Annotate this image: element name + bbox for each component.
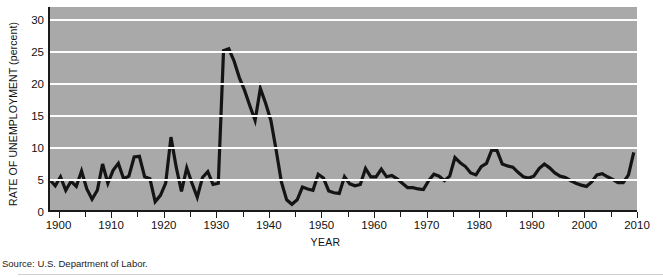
plot-area xyxy=(48,7,637,212)
source-note: Source: U.S. Department of Labor. xyxy=(2,258,148,269)
x-tick-1975 xyxy=(453,212,454,217)
gridline-20 xyxy=(50,83,637,85)
y-tick-label-25: 25 xyxy=(31,46,44,58)
gridline-30 xyxy=(50,19,637,21)
x-axis-ticks xyxy=(48,212,637,219)
y-tick-label-5: 5 xyxy=(38,174,44,186)
x-tick-label-1910: 1910 xyxy=(98,219,124,231)
x-tick-1965 xyxy=(400,212,401,217)
x-tick-1970 xyxy=(427,212,428,218)
unemployment-line-series xyxy=(50,7,639,212)
x-tick-2010 xyxy=(637,212,638,218)
gridline-15 xyxy=(50,115,637,117)
x-tick-label-1970: 1970 xyxy=(414,219,440,231)
x-tick-1915 xyxy=(137,212,138,217)
gridline-25 xyxy=(50,51,637,53)
x-tick-1985 xyxy=(506,212,507,217)
x-tick-label-1960: 1960 xyxy=(361,219,387,231)
x-tick-1920 xyxy=(164,212,165,218)
x-tick-1935 xyxy=(243,212,244,217)
x-tick-label-1990: 1990 xyxy=(519,219,545,231)
gridline-5 xyxy=(50,179,637,181)
x-tick-label-1930: 1930 xyxy=(203,219,229,231)
x-tick-1900 xyxy=(59,212,60,218)
x-tick-1960 xyxy=(374,212,375,218)
y-axis-tick-labels: 051015202530 xyxy=(20,0,44,220)
y-axis-title: RATE OF UNEMPLOYMENT (percent) xyxy=(7,9,19,219)
y-tick-label-20: 20 xyxy=(31,78,44,90)
x-tick-label-1980: 1980 xyxy=(466,219,492,231)
y-tick-label-0: 0 xyxy=(38,206,44,218)
x-tick-2000 xyxy=(584,212,585,218)
x-tick-1955 xyxy=(348,212,349,217)
x-tick-label-1920: 1920 xyxy=(151,219,177,231)
x-tick-label-2000: 2000 xyxy=(572,219,598,231)
gridline-10 xyxy=(50,147,637,149)
x-tick-1925 xyxy=(190,212,191,217)
x-axis-title: YEAR xyxy=(0,236,663,248)
y-tick-label-30: 30 xyxy=(31,14,44,26)
x-axis-title-text: YEAR xyxy=(311,236,341,248)
x-tick-1945 xyxy=(295,212,296,217)
x-tick-label-2010: 2010 xyxy=(624,219,650,231)
x-tick-label-1940: 1940 xyxy=(256,219,282,231)
x-tick-1940 xyxy=(269,212,270,218)
x-tick-2005 xyxy=(611,212,612,217)
x-tick-1990 xyxy=(532,212,533,218)
x-tick-1980 xyxy=(479,212,480,218)
x-tick-label-1950: 1950 xyxy=(309,219,335,231)
x-tick-1995 xyxy=(558,212,559,217)
bottom-divider xyxy=(18,274,663,275)
x-tick-1930 xyxy=(216,212,217,218)
x-tick-label-1900: 1900 xyxy=(46,219,72,231)
y-tick-label-10: 10 xyxy=(31,142,44,154)
unemployment-rate-chart-figure: RATE OF UNEMPLOYMENT (percent) 051015202… xyxy=(0,0,663,277)
y-tick-label-15: 15 xyxy=(31,110,44,122)
x-axis-tick-labels: 1900191019201930194019501960197019801990… xyxy=(0,219,663,235)
x-tick-1910 xyxy=(111,212,112,218)
x-tick-1950 xyxy=(321,212,322,218)
x-tick-1905 xyxy=(85,212,86,217)
